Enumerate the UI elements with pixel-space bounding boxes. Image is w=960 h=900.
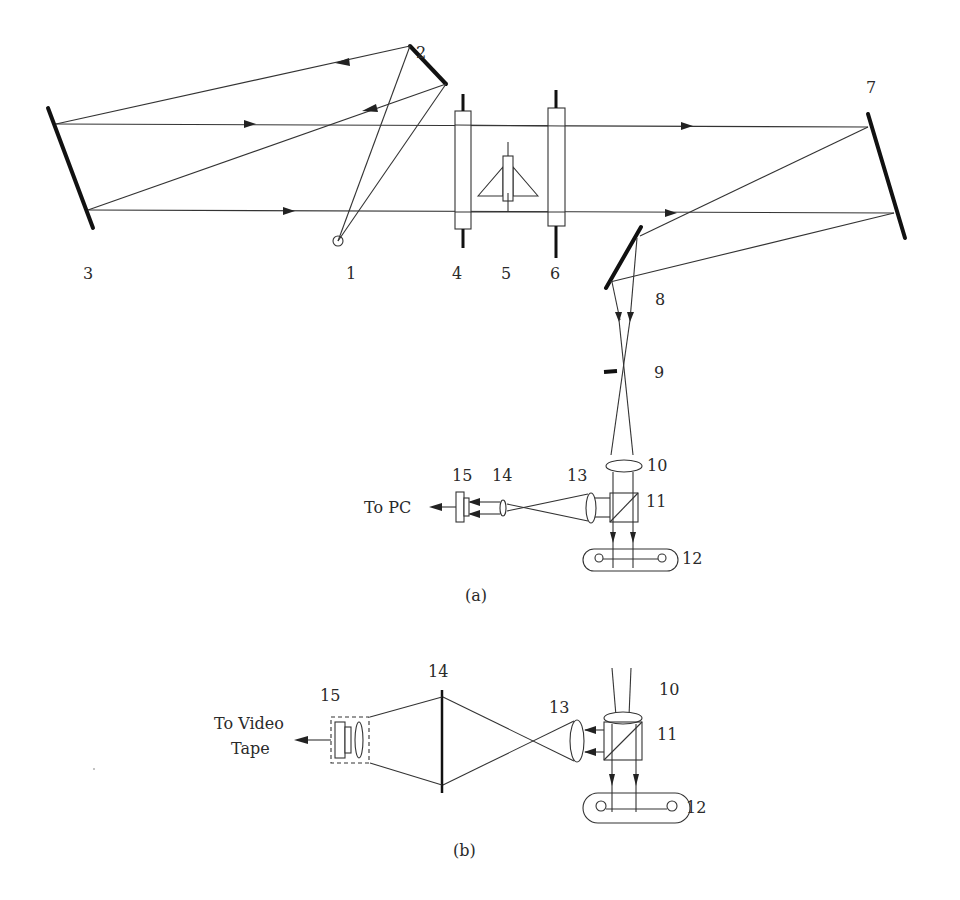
label-b-11: 11	[657, 727, 677, 743]
arrowhead	[681, 122, 693, 130]
label-b-12: 12	[686, 800, 706, 816]
lens-13	[570, 720, 584, 762]
arrowhead	[627, 312, 634, 322]
to-video-label-line2: Tape	[231, 741, 270, 757]
label-14: 14	[492, 468, 512, 484]
stray-dot	[93, 768, 95, 770]
video-camera-15	[331, 717, 369, 763]
label-11: 11	[646, 494, 666, 510]
optical-setup-diagram	[0, 0, 960, 900]
ray	[88, 84, 446, 210]
label-b-14: 14	[428, 664, 448, 680]
test-model-5	[478, 142, 538, 211]
to-pc-arrow	[429, 503, 442, 511]
arrowhead	[584, 748, 596, 756]
knife-edge-9	[604, 371, 617, 372]
window-4	[455, 111, 471, 229]
ray	[338, 46, 410, 241]
lens-14	[500, 500, 506, 516]
caption-a: (a)	[465, 588, 487, 604]
lens-13	[586, 493, 596, 523]
panel-b	[294, 668, 690, 823]
label-1: 1	[346, 266, 356, 282]
ray	[630, 238, 637, 320]
label-10: 10	[647, 458, 667, 474]
arrowhead	[283, 207, 295, 215]
label-12: 12	[682, 551, 702, 567]
ray	[610, 213, 894, 282]
label-b-10: 10	[659, 682, 679, 698]
ray	[640, 127, 868, 236]
arrowhead	[633, 774, 639, 786]
label-2: 2	[416, 45, 426, 61]
label-15: 15	[452, 468, 472, 484]
ray	[338, 84, 446, 241]
arrowhead	[362, 104, 378, 112]
label-9: 9	[654, 365, 664, 381]
arrowhead	[630, 532, 636, 543]
label-b-15: 15	[320, 688, 340, 704]
camera-12	[583, 549, 678, 571]
arrowhead	[468, 510, 480, 518]
mirror-3	[48, 108, 93, 228]
label-3: 3	[83, 266, 93, 282]
to-pc-label: To PC	[364, 500, 411, 516]
arrowhead	[665, 209, 677, 217]
camera-15	[456, 492, 469, 522]
label-13: 13	[567, 468, 587, 484]
arrowhead	[468, 498, 480, 506]
ray	[56, 46, 410, 124]
arrowhead	[584, 726, 596, 734]
mirror-7	[868, 114, 905, 238]
arrowhead	[610, 532, 616, 543]
label-7: 7	[866, 80, 876, 96]
to-video-label-line1: To Video	[214, 716, 284, 732]
label-4: 4	[452, 266, 462, 282]
label-6: 6	[550, 266, 560, 282]
panel-a	[48, 46, 905, 571]
to-video-tape-arrow	[294, 736, 308, 744]
arrowhead	[609, 774, 615, 786]
lens-10	[606, 460, 642, 472]
arrowhead	[244, 120, 256, 128]
caption-b: (b)	[453, 843, 476, 859]
beam-splitter-11	[610, 493, 638, 522]
label-8: 8	[655, 292, 665, 308]
label-5: 5	[501, 266, 511, 282]
label-b-13: 13	[549, 700, 569, 716]
